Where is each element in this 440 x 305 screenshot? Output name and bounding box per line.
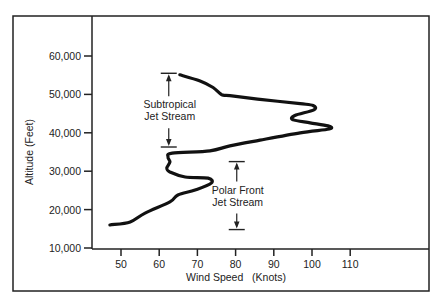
arrow-down-icon (166, 139, 172, 146)
x-tick-label: 50 (115, 258, 127, 270)
x-tick-label: 60 (153, 258, 165, 270)
y-tick-label: 10,000 (49, 242, 81, 254)
annotation-label: Jet Stream (144, 110, 195, 122)
annotation-label: Polar Front (212, 184, 264, 196)
y-tick-label: 40,000 (49, 127, 81, 139)
y-tick-label: 20,000 (49, 204, 81, 216)
x-tick-label: 90 (268, 258, 280, 270)
annotation-label: Jet Stream (212, 196, 263, 208)
x-tick-label: 100 (303, 258, 321, 270)
arrow-up-icon (166, 74, 172, 81)
arrow-down-icon (234, 222, 240, 229)
x-tick-label: 70 (192, 258, 204, 270)
annotation-subtropical: SubtropicalJet Stream (143, 73, 196, 147)
y-tick-label: 60,000 (49, 50, 81, 62)
y-tick-label: 30,000 (49, 165, 81, 177)
x-ticks: 5060708090100110 (115, 249, 359, 270)
chart: 10,00020,00030,00040,00050,00060,000 506… (0, 0, 440, 305)
annotation-label: Subtropical (143, 98, 196, 110)
y-ticks: 10,00020,00030,00040,00050,00060,000 (49, 50, 92, 254)
y-axis-title: Altitude (Feet) (23, 119, 35, 185)
annotation-polar-front: Polar FrontJet Stream (212, 162, 264, 230)
x-tick-label: 80 (230, 258, 242, 270)
y-tick-label: 50,000 (49, 88, 81, 100)
x-axis-title: Wind Speed (Knots) (186, 271, 286, 283)
arrow-up-icon (234, 163, 240, 170)
x-tick-label: 110 (342, 258, 359, 270)
